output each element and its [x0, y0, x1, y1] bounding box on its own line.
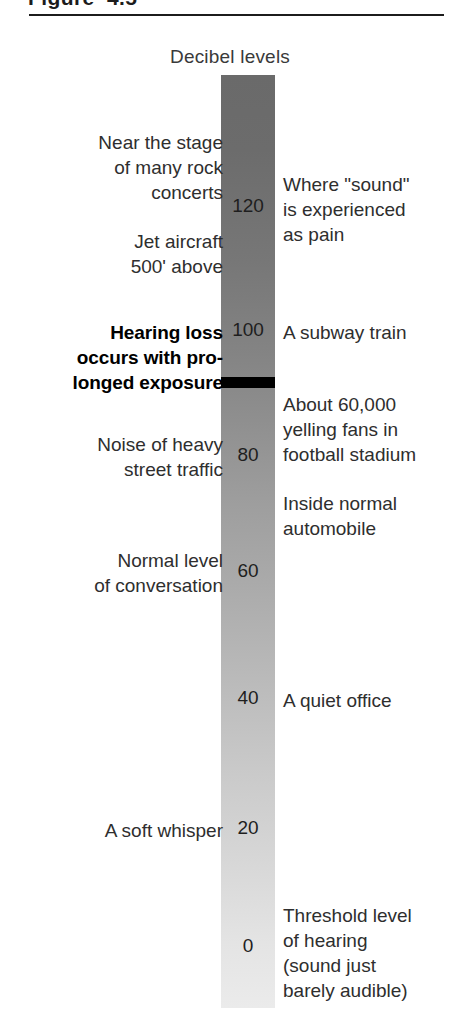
- label-automobile: Inside normal automobile: [283, 491, 397, 541]
- label-conversation: Normal level of conversation: [94, 548, 223, 598]
- label-threshold: Threshold level of hearing (sound just b…: [283, 903, 412, 1003]
- tick-label-60: 60: [221, 561, 275, 581]
- label-street-traffic: Noise of heavy street traffic: [97, 432, 223, 482]
- hearing-loss-threshold-band: [221, 377, 275, 388]
- tick-label-120: 120: [221, 196, 275, 216]
- chart-title: Decibel levels: [0, 46, 460, 68]
- label-rock-concerts: Near the stage of many rock concerts: [98, 130, 223, 205]
- label-sound-as-pain: Where "sound" is experienced as pain: [283, 172, 410, 247]
- tick-label-80: 80: [221, 445, 275, 465]
- decibel-level-chart: Decibel levels 120 100 80 60 40 20 0 Nea…: [0, 0, 460, 1024]
- tick-label-20: 20: [221, 818, 275, 838]
- label-quiet-office: A quiet office: [283, 688, 391, 713]
- tick-label-0: 0: [221, 936, 275, 956]
- label-subway-train: A subway train: [283, 320, 407, 345]
- tick-label-40: 40: [221, 688, 275, 708]
- label-jet-aircraft: Jet aircraft 500' above: [131, 229, 223, 279]
- label-hearing-loss: Hearing loss occurs with pro- longed exp…: [72, 320, 223, 395]
- label-football-stadium: About 60,000 yelling fans in football st…: [283, 392, 416, 467]
- label-soft-whisper: A soft whisper: [105, 818, 223, 843]
- tick-label-100: 100: [221, 320, 275, 340]
